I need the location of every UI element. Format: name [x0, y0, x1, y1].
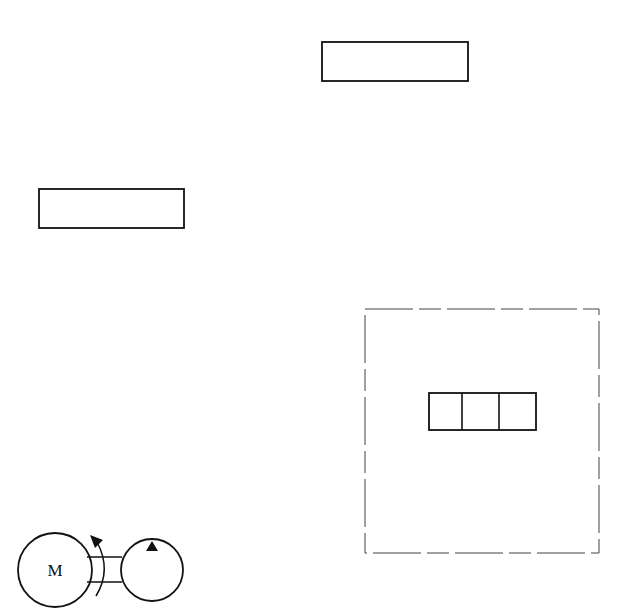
motor-label: M	[47, 561, 62, 580]
dashed-enclosure	[365, 309, 599, 553]
pump-direction-triangle-icon	[146, 541, 158, 551]
block-left	[39, 189, 184, 228]
electric-motor: M	[18, 533, 92, 607]
block-top	[322, 42, 468, 81]
hydraulic-diagram: M	[0, 0, 627, 614]
three-position-valve	[429, 393, 536, 430]
pump	[121, 539, 183, 601]
